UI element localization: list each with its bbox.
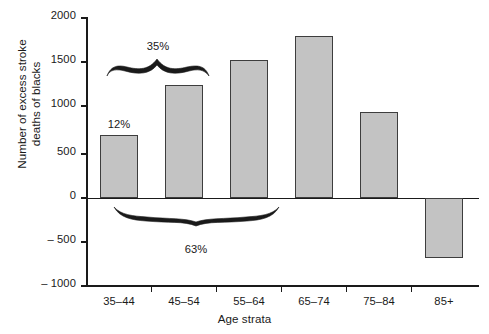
bar-35-44 bbox=[100, 135, 138, 198]
bar-75-84 bbox=[360, 112, 398, 198]
zero-baseline bbox=[87, 198, 479, 199]
y-tick-mark bbox=[81, 17, 87, 18]
x-tick-mark bbox=[216, 286, 217, 292]
x-tick-mark bbox=[346, 286, 347, 292]
y-tick-label-neg500: – 500 bbox=[48, 234, 77, 245]
x-axis-label: Age strata bbox=[0, 313, 489, 325]
bar-label-12-percent: 12% bbox=[108, 119, 131, 130]
brace-top-icon bbox=[105, 58, 211, 78]
y-tick-mark bbox=[81, 153, 87, 154]
y-axis-line bbox=[86, 17, 88, 287]
y-axis-label-line2: deaths of blacks bbox=[29, 62, 42, 147]
y-axis-label: Number of excess stroke deaths of blacks bbox=[15, 21, 43, 187]
x-tick-label-55-64: 55–64 bbox=[233, 296, 265, 307]
x-tick-mark bbox=[281, 286, 282, 292]
y-tick-label-2000: 2000 bbox=[51, 10, 76, 21]
x-tick-label-75-84: 75–84 bbox=[363, 296, 395, 307]
y-tick-label-neg1000: – 1000 bbox=[41, 278, 76, 289]
x-tick-mark bbox=[411, 286, 412, 292]
y-tick-mark bbox=[81, 197, 87, 198]
y-axis-label-line1: Number of excess stroke bbox=[15, 39, 28, 168]
x-tick-mark bbox=[151, 286, 152, 292]
y-tick-mark bbox=[81, 105, 87, 106]
x-axis-line bbox=[86, 285, 479, 287]
y-tick-label-500: 500 bbox=[57, 146, 76, 157]
x-tick-label-85-plus: 85+ bbox=[434, 296, 453, 307]
y-tick-mark bbox=[81, 285, 87, 286]
y-tick-label-0: 0 bbox=[70, 190, 76, 201]
x-tick-label-45-54: 45–54 bbox=[168, 296, 200, 307]
y-tick-label-1500: 1500 bbox=[51, 54, 76, 65]
y-tick-mark bbox=[81, 61, 87, 62]
bar-45-54 bbox=[165, 85, 203, 198]
stroke-deaths-bar-chart: Number of excess stroke deaths of blacks… bbox=[0, 0, 489, 334]
y-tick-mark bbox=[81, 241, 87, 242]
brace-label-63-percent: 63% bbox=[185, 244, 208, 255]
x-tick-label-35-44: 35–44 bbox=[103, 296, 135, 307]
brace-bottom-icon bbox=[112, 205, 282, 227]
bar-65-74 bbox=[295, 36, 333, 198]
y-tick-label-1000: 1000 bbox=[51, 98, 76, 109]
brace-label-35-percent: 35% bbox=[147, 41, 170, 52]
x-tick-label-65-74: 65–74 bbox=[298, 296, 330, 307]
bar-55-64 bbox=[230, 60, 268, 198]
bar-85-plus bbox=[425, 198, 463, 258]
